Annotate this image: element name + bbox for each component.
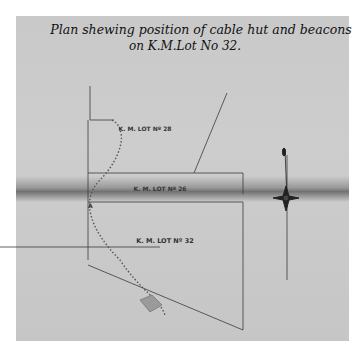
compass-rose-icon	[273, 148, 299, 211]
lot-32-label: K. M. LOT Nº 32	[136, 237, 194, 245]
corner-a-marker: A	[88, 202, 93, 209]
survey-plan-drawing: K. M. LOT Nº 28 K. M. LOT Nº 26 K. M. LO…	[0, 0, 362, 354]
lot-28-label: K. M. LOT Nº 28	[118, 125, 171, 132]
lot-26-label: K. M. LOT Nº 26	[133, 185, 186, 192]
